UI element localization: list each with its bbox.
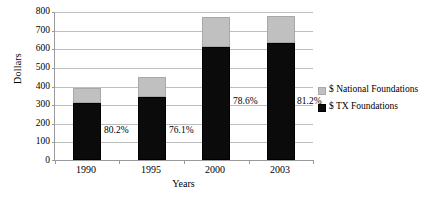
- data-label-2000: 78.6%: [233, 96, 258, 106]
- plot-area: 80.2% 76.1% 78.6% 81.2%: [54, 12, 313, 161]
- y-tick-700: 700: [14, 26, 50, 36]
- bar-segment-national-2000[interactable]: [202, 17, 230, 48]
- legend-label-national: $ National Foundations: [329, 84, 418, 95]
- bar-segment-tx-1995[interactable]: [138, 97, 166, 160]
- y-tick-800: 800: [14, 7, 50, 17]
- legend-label-tx: $ TX Foundations: [329, 101, 398, 112]
- data-label-1990: 80.2%: [104, 125, 129, 135]
- legend-swatch-icon-tx: [318, 104, 326, 112]
- y-axis-tick-labels: 800 700 600 500 400 300 200 100 0: [14, 12, 50, 161]
- y-tickmark-500: [52, 68, 55, 69]
- x-tick-2003: 2003: [254, 164, 306, 176]
- x-tick-1995: 1995: [125, 164, 177, 176]
- legend-swatch-icon-national: [318, 87, 326, 95]
- bar-group-2000[interactable]: [202, 17, 230, 160]
- chart-legend: $ National Foundations $ TX Foundations: [318, 84, 438, 118]
- bar-segment-tx-2000[interactable]: [202, 47, 230, 160]
- legend-item-national[interactable]: $ National Foundations: [318, 84, 438, 95]
- bar-segment-national-1995[interactable]: [138, 77, 166, 97]
- x-tickmark-4: [313, 160, 314, 164]
- bar-segment-tx-2003[interactable]: [267, 43, 295, 160]
- y-tickmark-700: [52, 31, 55, 32]
- stacked-bar-chart: Dollars 800 700 600 500 400 300 200 100 …: [0, 0, 439, 205]
- y-tick-400: 400: [14, 82, 50, 92]
- y-tickmark-100: [52, 142, 55, 143]
- x-tick-1990: 1990: [60, 164, 112, 176]
- legend-item-tx[interactable]: $ TX Foundations: [318, 101, 438, 112]
- gridline-800: [55, 12, 313, 13]
- bar-segment-national-1990[interactable]: [73, 88, 101, 103]
- x-axis-title: Years: [54, 178, 313, 189]
- bar-group-1995[interactable]: [138, 77, 166, 160]
- bar-segment-national-2003[interactable]: [267, 16, 295, 43]
- bar-segment-tx-1990[interactable]: [73, 103, 101, 160]
- x-tick-2000: 2000: [189, 164, 241, 176]
- bar-group-2003[interactable]: [267, 16, 295, 160]
- x-axis-tick-labels: 1990 1995 2000 2003: [54, 164, 313, 178]
- y-tickmark-400: [52, 87, 55, 88]
- y-tick-0: 0: [14, 156, 50, 166]
- y-tick-100: 100: [14, 137, 50, 147]
- y-tick-600: 600: [14, 44, 50, 54]
- bar-group-1990[interactable]: [73, 88, 101, 160]
- y-tickmark-800: [52, 12, 55, 13]
- y-tick-200: 200: [14, 119, 50, 129]
- y-tickmark-200: [52, 124, 55, 125]
- data-label-1995: 76.1%: [169, 125, 194, 135]
- y-tickmark-600: [52, 49, 55, 50]
- y-tick-500: 500: [14, 63, 50, 73]
- y-tick-300: 300: [14, 100, 50, 110]
- y-tickmark-300: [52, 105, 55, 106]
